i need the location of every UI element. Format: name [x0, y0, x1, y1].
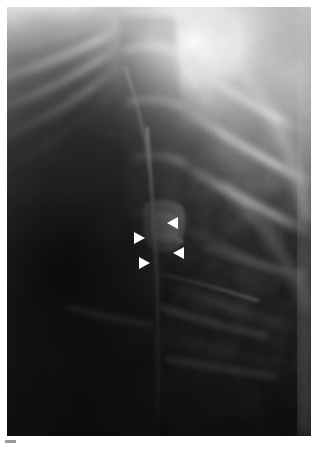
arrowhead-lower-left: [139, 257, 150, 269]
radiograph-canvas: [7, 7, 311, 436]
figure-tick-mark: [5, 440, 16, 443]
arrowhead-lower-right: [173, 247, 184, 259]
chest-radiograph-image: [7, 7, 311, 436]
arrowhead-upper-right: [167, 217, 178, 229]
figure-page: [0, 0, 311, 449]
film-grain: [7, 7, 311, 436]
arrowhead-upper-left: [134, 232, 145, 244]
